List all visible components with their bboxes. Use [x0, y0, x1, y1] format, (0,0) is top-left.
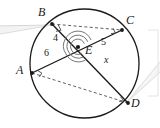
label-point-D: D: [131, 97, 140, 109]
label-point-E: E: [85, 44, 92, 56]
label-segment-AE: 6: [44, 48, 49, 58]
main-circle: [30, 9, 139, 118]
right-angle-at-A: [38, 71, 42, 77]
point-B: [50, 22, 54, 26]
callout-right-pointer: [128, 30, 160, 101]
label-point-A: A: [16, 64, 23, 76]
label-segment-EC: 5: [101, 37, 106, 47]
label-point-B: B: [38, 6, 45, 18]
point-C: [120, 28, 124, 32]
segment-BC: [52, 24, 122, 30]
point-A: [30, 71, 34, 75]
label-point-C: C: [126, 14, 134, 26]
point-E: [76, 45, 80, 49]
label-segment-ED: x: [104, 55, 108, 65]
label-segment-BE: 4: [53, 33, 58, 43]
point-D: [126, 101, 130, 105]
